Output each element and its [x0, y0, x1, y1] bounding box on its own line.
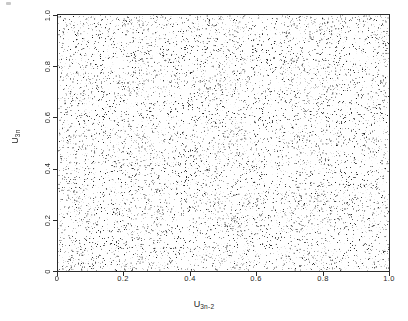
- x-tick-label: 0.8: [310, 274, 336, 283]
- y-tick-mark: [53, 169, 57, 170]
- y-tick-mark: [53, 271, 57, 272]
- figure-canvas: 0 0.2 0.4 0.6 0.8 1.0 0 0.2 0.4 0.6 0.8 …: [0, 0, 408, 321]
- scan-artifact-speck: [6, 2, 11, 5]
- scatter-point-cloud: [58, 15, 389, 271]
- y-axis-title: U3n: [10, 114, 21, 160]
- y-tick-label: 0: [43, 261, 52, 283]
- x-tick-label: 1.0: [376, 274, 402, 283]
- y-tick-label: 0.8: [43, 56, 52, 78]
- x-axis-title-subscript: 3n-2: [200, 303, 214, 310]
- y-tick-label: 0.6: [43, 107, 52, 129]
- y-axis-title-base: U: [10, 137, 20, 144]
- plot-area: [57, 14, 390, 272]
- y-tick-mark: [53, 220, 57, 221]
- y-tick-label: 0.2: [43, 210, 52, 232]
- y-tick-mark: [53, 66, 57, 67]
- y-tick-mark: [53, 15, 57, 16]
- y-tick-label: 1.0: [43, 5, 52, 27]
- y-axis-title-subscript: 3n: [14, 129, 21, 137]
- y-tick-mark: [53, 117, 57, 118]
- x-tick-label: 0.6: [243, 274, 269, 283]
- x-axis-title: U3n-2: [0, 299, 408, 310]
- x-tick-label: 0.4: [177, 274, 203, 283]
- y-tick-label: 0.4: [43, 158, 52, 180]
- x-tick-label: 0.2: [110, 274, 136, 283]
